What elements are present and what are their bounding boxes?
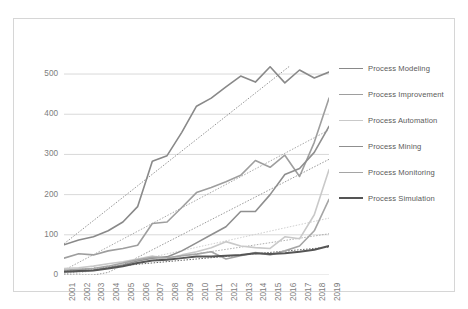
x-tick-label: 2012 — [230, 283, 239, 301]
legend-swatch-line-icon — [339, 172, 363, 173]
plot-area — [64, 66, 329, 275]
y-tick-label: 200 — [28, 190, 58, 199]
x-tick-label: 2018 — [318, 283, 327, 301]
y-tick-label: 300 — [28, 149, 58, 158]
x-tick-label: 2017 — [304, 283, 313, 301]
chart-container: 0100200300400500 20012002200320042005200… — [13, 18, 455, 292]
x-tick-label: 2014 — [259, 283, 268, 301]
legend-item-label: Process Automation — [368, 116, 437, 125]
legend-item[interactable]: Process Modeling — [339, 55, 468, 81]
x-tick-label: 2006 — [142, 283, 151, 301]
x-tick-label: 2005 — [127, 283, 136, 301]
y-tick-label: 0 — [28, 270, 58, 279]
x-tick-label: 2016 — [289, 283, 298, 301]
legend-swatch-line-icon — [339, 146, 363, 147]
y-tick-label: 500 — [28, 69, 58, 78]
series-canvas — [64, 66, 329, 275]
x-tick-label: 2019 — [333, 283, 342, 301]
x-tick-label: 2008 — [171, 283, 180, 301]
y-tick-label: 400 — [28, 109, 58, 118]
legend-swatch-line-icon — [339, 68, 363, 69]
legend-item-label: Process Improvement — [368, 90, 444, 99]
series-line-0[interactable] — [64, 67, 329, 245]
x-tick-label: 2015 — [274, 283, 283, 301]
x-tick-label: 2007 — [156, 283, 165, 301]
legend-swatch-line-icon — [339, 94, 363, 95]
legend-item-label: Process Monitoring — [368, 168, 435, 177]
x-tick-label: 2009 — [186, 283, 195, 301]
legend-item[interactable]: Process Improvement — [339, 81, 468, 107]
chart-legend: Process ModelingProcess ImprovementProce… — [339, 55, 468, 211]
legend-swatch-line-icon — [339, 120, 363, 121]
series-line-1[interactable] — [64, 98, 329, 258]
x-tick-label: 2003 — [97, 283, 106, 301]
legend-item[interactable]: Process Monitoring — [339, 159, 468, 185]
legend-swatch-line-icon — [339, 197, 363, 199]
x-tick-label: 2002 — [83, 283, 92, 301]
x-tick-label: 2011 — [215, 283, 224, 301]
x-tick-label: 2013 — [245, 283, 254, 301]
legend-item[interactable]: Process Automation — [339, 107, 468, 133]
x-tick-label: 2001 — [68, 283, 77, 301]
y-tick-label: 100 — [28, 230, 58, 239]
trendline-3 — [64, 159, 329, 275]
legend-item[interactable]: Process Mining — [339, 133, 468, 159]
legend-item[interactable]: Process Simulation — [339, 185, 468, 211]
legend-item-label: Process Modeling — [368, 64, 430, 73]
x-tick-label: 2010 — [201, 283, 210, 301]
x-tick-label: 2004 — [112, 283, 121, 301]
legend-item-label: Process Simulation — [368, 194, 435, 203]
legend-item-label: Process Mining — [368, 142, 421, 151]
